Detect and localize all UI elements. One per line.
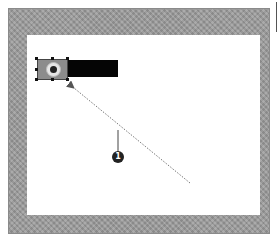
dotted-arrow — [74, 88, 190, 183]
callout-number: 1 — [112, 151, 124, 163]
annotation-overlay — [0, 0, 280, 237]
